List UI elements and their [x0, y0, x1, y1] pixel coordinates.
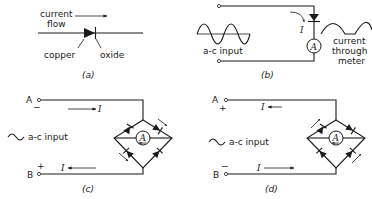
ammeter-symbol-d: A — [332, 133, 340, 143]
caption-b: (b) — [261, 70, 274, 80]
current-symbol-bottom-c: I — [60, 163, 65, 173]
terminal-a-polarity-d: + — [219, 103, 227, 113]
ac-input-label-d: a-c input — [229, 137, 269, 147]
terminal-a-c — [37, 98, 40, 101]
terminal-b-label-c: B — [27, 170, 33, 180]
conduction-arrow-top-left-d-icon — [311, 119, 320, 128]
ammeter-icon: A — [307, 39, 321, 53]
conduction-arrow-top-right-c-icon — [158, 119, 167, 126]
panel-a: current flow copper oxide (a) — [38, 9, 143, 80]
terminal-a-polarity-c: − — [33, 102, 41, 112]
terminal-a-d — [224, 98, 227, 101]
diode-top-right-icon-d — [345, 123, 355, 134]
panel-d: A + I a-c input − B I — [209, 95, 365, 194]
conduction-arrow-bottom-left-c-icon — [119, 153, 128, 161]
output-label-line3: meter — [338, 56, 365, 66]
terminal-b-polarity-d: − — [221, 161, 229, 171]
caption-c: (c) — [82, 184, 94, 194]
sine-wave-icon — [197, 24, 250, 44]
terminal-b-label-d: B — [213, 170, 219, 180]
terminal-bottom — [217, 59, 220, 62]
diode-top-left-icon — [123, 124, 134, 134]
copper-oxide-diode-icon — [84, 27, 96, 39]
bottom-wire-d — [228, 168, 336, 174]
current-symbol-top-d: I — [260, 102, 265, 112]
top-wire-d — [228, 100, 336, 120]
ammeter-symbol-c: A — [139, 133, 147, 143]
caption-a: (a) — [82, 70, 95, 80]
copper-label: copper — [44, 50, 75, 60]
top-wire-c — [41, 100, 143, 120]
terminal-top — [217, 4, 220, 7]
bottom-wire-c — [41, 168, 143, 174]
terminal-b-d — [224, 172, 227, 175]
ac-input-label-c: a-c input — [28, 132, 68, 142]
current-symbol-top-c: I — [97, 104, 102, 114]
bridge-rectifier-d: A — [307, 119, 365, 168]
conduction-arrow-bottom-right-d-icon — [352, 154, 361, 163]
ac-wave-icon-c — [8, 134, 24, 140]
panel-c: A − I a-c input + B I — [8, 95, 172, 194]
oxide-leader-line — [96, 39, 101, 48]
current-flow-label-line1: current — [40, 9, 73, 19]
diode-top-left-icon-d — [316, 124, 327, 134]
half-wave-output-icon — [321, 22, 372, 34]
diode-top-right-icon — [152, 123, 162, 134]
current-direction-arrow-icon — [290, 12, 304, 22]
bridge-rectifier-c: A — [114, 119, 172, 168]
panel-b: I A a-c input current through meter (b) — [197, 4, 372, 80]
caption-d: (d) — [265, 184, 278, 194]
output-label-line1: current — [333, 36, 366, 46]
current-symbol-b: I — [299, 25, 304, 35]
rectifier-diagram: current flow copper oxide (a) I A — [0, 0, 372, 199]
current-flow-label-line2: flow — [47, 19, 66, 29]
terminal-b-c — [37, 172, 40, 175]
terminal-a-label-d: A — [212, 95, 219, 105]
ac-input-label-b: a-c input — [203, 46, 243, 56]
ac-wave-icon-d — [209, 139, 225, 145]
diode-icon — [308, 14, 320, 22]
terminal-a-label-c: A — [26, 95, 33, 105]
ammeter-icon-d: A — [329, 131, 343, 145]
oxide-label: oxide — [100, 50, 125, 60]
ammeter-symbol-b: A — [310, 42, 318, 52]
output-label-line2: through — [332, 46, 367, 56]
ammeter-icon-c: A — [136, 131, 150, 145]
current-symbol-bottom-d: I — [256, 163, 261, 173]
terminal-b-polarity-c: + — [37, 161, 45, 171]
copper-leader-line — [78, 39, 84, 48]
